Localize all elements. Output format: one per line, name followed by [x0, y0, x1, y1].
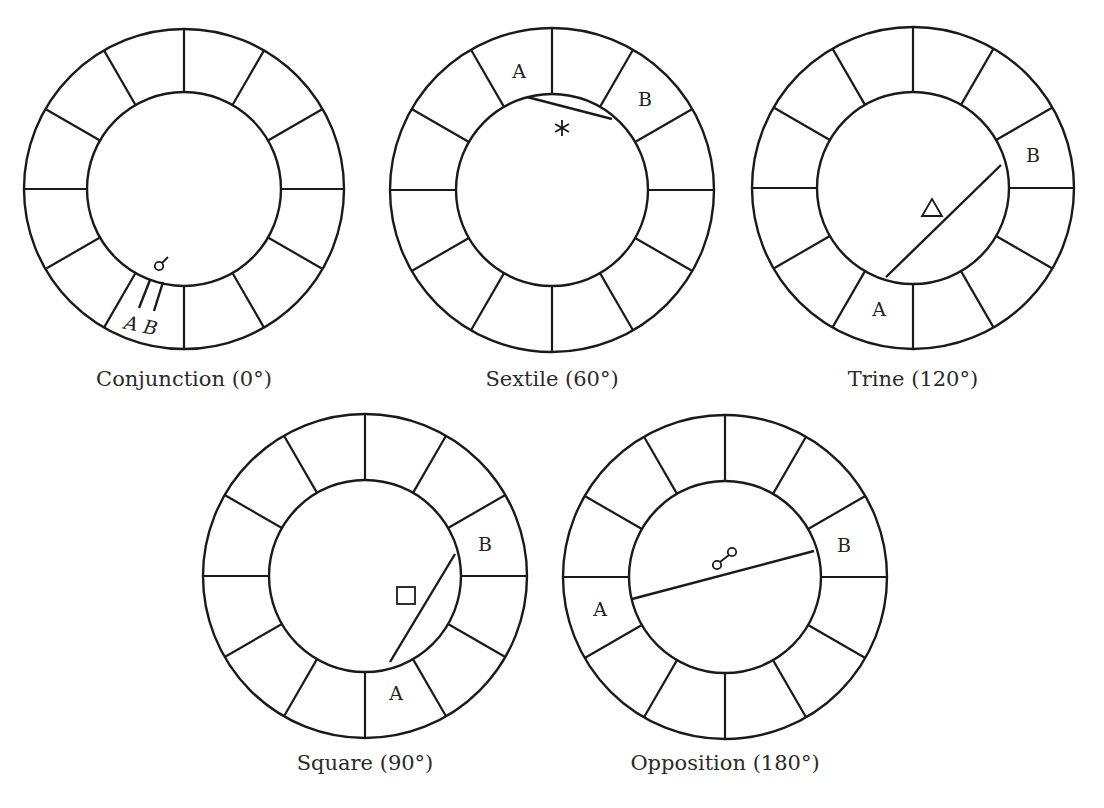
house-divider	[413, 436, 446, 493]
house-divider	[225, 495, 282, 528]
inner-ring	[817, 92, 1009, 284]
house-divider	[448, 495, 505, 528]
house-divider	[471, 273, 504, 330]
house-divider	[104, 50, 136, 105]
house-divider	[284, 436, 317, 493]
caption-trine: Trine (120°)	[848, 367, 978, 391]
planet-label-a: A	[592, 598, 607, 620]
house-divider	[961, 271, 994, 327]
planet-label-b: B	[478, 533, 492, 555]
aspect-wheels: ABConjunction (0°)ABSextile (60°)ABTrine…	[24, 27, 1074, 775]
house-divider	[225, 624, 282, 657]
house-divider	[284, 659, 317, 716]
house-divider	[600, 50, 633, 107]
aspect-line	[886, 165, 1001, 277]
planet-label-a: A	[388, 682, 403, 704]
house-divider	[833, 271, 866, 327]
house-divider	[412, 238, 469, 271]
house-divider	[961, 49, 994, 105]
house-divider	[808, 625, 865, 658]
house-divider	[45, 109, 100, 141]
trine-symbol-icon	[922, 199, 942, 216]
caption-conjunction: Conjunction (0°)	[96, 367, 272, 391]
sextile-symbol-icon	[555, 120, 569, 136]
house-divider	[268, 238, 323, 270]
aspect-line	[390, 554, 455, 662]
caption-opposition: Opposition (180°)	[630, 751, 819, 775]
house-divider	[996, 236, 1052, 269]
house-divider	[644, 660, 677, 717]
wheel-opposition: ABOpposition (180°)	[563, 415, 887, 775]
house-divider	[471, 50, 504, 107]
house-divider	[585, 625, 642, 658]
house-divider	[412, 109, 469, 142]
house-divider	[644, 437, 677, 494]
house-divider	[773, 660, 806, 717]
house-divider	[996, 108, 1052, 141]
caption-sextile: Sextile (60°)	[485, 367, 618, 391]
house-divider	[233, 50, 265, 105]
inner-ring	[456, 94, 648, 286]
planet-label-b: B	[837, 534, 851, 556]
conjunction-symbol-icon	[155, 257, 168, 270]
aspect-line	[527, 97, 612, 119]
square-symbol-icon	[397, 587, 415, 604]
house-divider	[774, 236, 830, 269]
opposition-symbol-icon	[713, 548, 736, 569]
planet-label-b: B	[140, 315, 159, 340]
house-divider	[45, 238, 100, 270]
wheel-trine: ABTrine (120°)	[752, 27, 1074, 391]
house-divider	[635, 238, 692, 271]
house-divider	[635, 109, 692, 142]
house-divider	[833, 49, 866, 105]
planet-marker	[139, 280, 150, 308]
inner-ring	[269, 480, 461, 672]
planet-label-a: A	[871, 298, 886, 320]
planet-label-a: A	[511, 60, 526, 82]
wheel-sextile: ABSextile (60°)	[390, 28, 714, 391]
house-divider	[773, 437, 806, 494]
house-divider	[268, 109, 323, 141]
house-divider	[808, 496, 865, 529]
house-divider	[774, 108, 830, 141]
inner-ring	[629, 481, 821, 673]
planet-marker	[154, 282, 163, 311]
house-divider	[585, 496, 642, 529]
aspect-line	[632, 551, 814, 599]
planet-label-b: B	[1026, 144, 1040, 166]
wheel-conjunction: ABConjunction (0°)	[24, 29, 344, 391]
aspects-figure: ABConjunction (0°)ABSextile (60°)ABTrine…	[0, 0, 1104, 808]
planet-label-b: B	[638, 88, 652, 110]
planet-label-a: A	[120, 311, 140, 336]
house-divider	[600, 273, 633, 330]
wheel-square: ABSquare (90°)	[203, 414, 527, 775]
house-divider	[233, 273, 265, 328]
house-divider	[413, 659, 446, 716]
caption-square: Square (90°)	[297, 751, 434, 775]
house-divider	[448, 624, 505, 657]
inner-ring	[87, 92, 281, 286]
